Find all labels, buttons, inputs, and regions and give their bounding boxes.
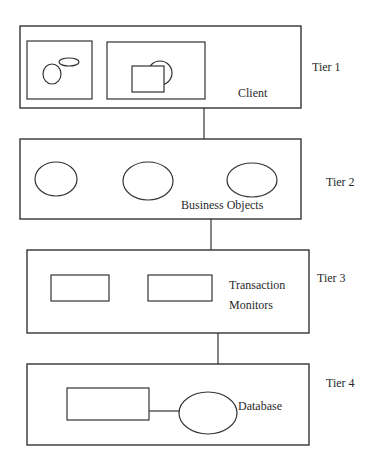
tier-1-label: Tier 1 bbox=[312, 60, 341, 74]
client-shape-rect bbox=[132, 66, 164, 92]
tier-4-label: Tier 4 bbox=[326, 376, 355, 390]
database-label: Database bbox=[238, 399, 282, 413]
tier-3-transaction-monitors: Transaction Monitors bbox=[27, 250, 309, 333]
business-objects-label: Business Objects bbox=[181, 198, 264, 212]
tier-4-database: Database bbox=[27, 364, 309, 445]
tier-3-label: Tier 3 bbox=[317, 271, 346, 285]
monitors-label: Monitors bbox=[229, 298, 273, 312]
transaction-label: Transaction bbox=[229, 278, 285, 292]
tier-2-label: Tier 2 bbox=[326, 175, 355, 189]
client-label: Client bbox=[238, 86, 268, 100]
tier-1-client: Client bbox=[20, 26, 301, 108]
tier-architecture-diagram: Client Tier 1 Business Objects Tier 2 Tr… bbox=[0, 0, 373, 473]
tier-2-business-objects: Business Objects bbox=[20, 139, 301, 219]
